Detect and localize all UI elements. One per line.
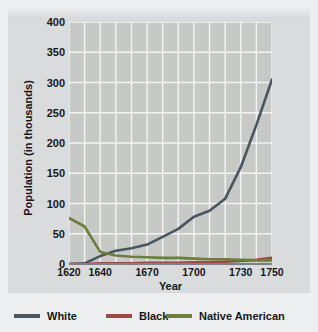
x-tick-label: 1750 (260, 266, 283, 278)
legend-item-black[interactable]: Black (106, 310, 168, 322)
legend-label: Native American (199, 310, 285, 322)
y-tick-label: 100 (31, 199, 65, 210)
legend-swatch-icon (14, 314, 40, 318)
x-tick-label: 1730 (229, 266, 252, 278)
plot-area (69, 22, 272, 264)
x-tick-label: 1700 (182, 266, 205, 278)
legend-swatch-icon (106, 314, 132, 318)
legend-label: White (47, 310, 77, 322)
y-axis-title: Population (in thousands) (22, 73, 34, 223)
y-tick-label: 150 (31, 168, 65, 179)
population-line-chart-figure: 050100150200250300350400 162016401670170… (0, 0, 318, 332)
y-tick-label: 250 (31, 108, 65, 119)
x-axis-title: Year (69, 280, 272, 292)
x-tick-label: 1620 (57, 266, 80, 278)
legend-item-white[interactable]: White (14, 310, 77, 322)
x-axis-line (69, 263, 272, 265)
x-tick-label: 1640 (89, 266, 112, 278)
series-lines (69, 22, 272, 264)
legend-swatch-icon (166, 314, 192, 318)
y-tick-label: 400 (31, 17, 65, 28)
y-tick-label: 50 (31, 229, 65, 240)
legend-item-native-american[interactable]: Native American (166, 310, 285, 322)
y-tick-label: 300 (31, 78, 65, 89)
chart-legend: WhiteBlackNative American (0, 305, 318, 327)
y-tick-label: 350 (31, 47, 65, 58)
y-axis-tick-labels: 050100150200250300350400 (29, 0, 65, 332)
legend-label: Black (139, 310, 168, 322)
y-tick-label: 200 (31, 138, 65, 149)
x-tick-label: 1670 (135, 266, 158, 278)
